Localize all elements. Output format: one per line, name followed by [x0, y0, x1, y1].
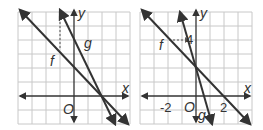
right-origin-label: O [184, 99, 195, 115]
left-x-label: x [121, 80, 130, 96]
right-tick-2: 2 [220, 100, 227, 115]
right-f-label: f [159, 37, 165, 53]
right-tick-4: 4 [186, 32, 193, 47]
left-origin-label: O [63, 101, 74, 117]
left-f-label: f [50, 53, 56, 69]
left-y-label: y [77, 5, 86, 21]
graphs-figure: y x O f g y x O f g -2 2 4 [0, 0, 263, 130]
right-g-label: g [198, 107, 206, 123]
right-graph: y x O f g -2 2 4 [140, 5, 252, 124]
right-tick-neg2: -2 [160, 100, 172, 115]
left-g-label: g [84, 35, 92, 51]
right-y-label: y [199, 5, 208, 21]
right-x-label: x [243, 80, 252, 96]
left-graph: y x O f g [18, 5, 130, 124]
